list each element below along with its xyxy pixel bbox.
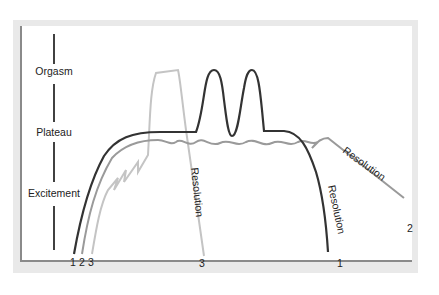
curve-1 [74, 70, 328, 254]
resolution-label-1: Resolution [326, 184, 348, 235]
phase-label-excitement: Excitement [28, 187, 80, 199]
end-label-2: 2 [407, 222, 413, 234]
start-label-2: 2 [79, 256, 85, 268]
response-cycle-diagram: Orgasm Plateau Excitement 1 2 3 3 1 2 Re… [0, 0, 439, 295]
end-label-3: 3 [199, 257, 205, 269]
start-label-3: 3 [88, 256, 94, 268]
phase-label-plateau: Plateau [36, 126, 72, 138]
start-label-1: 1 [70, 256, 76, 268]
resolution-label-2: Resolution [341, 144, 388, 183]
phase-label-orgasm: Orgasm [35, 65, 73, 77]
phase-axis: Orgasm Plateau Excitement [28, 34, 80, 250]
end-label-1: 1 [337, 257, 343, 269]
resolution-label-3: Resolution [189, 167, 206, 218]
